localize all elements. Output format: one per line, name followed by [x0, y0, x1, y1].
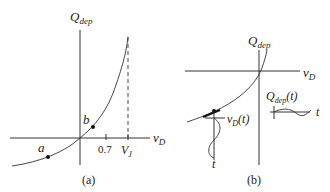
point-a: [46, 155, 50, 159]
caption-b: (b): [247, 173, 261, 187]
qdep-t-label: Qdep(t): [266, 89, 298, 105]
operating-segment: [203, 110, 220, 117]
point-a-label: a: [38, 140, 45, 155]
y-axis-label: Qdep: [248, 33, 271, 50]
caption-a: (a): [82, 173, 95, 187]
panel-a: Qdep vD 0.7 VJ a b (a): [10, 9, 166, 187]
y-axis-label: Qdep: [70, 9, 93, 26]
point-b-label: b: [83, 112, 90, 127]
panel-b: Qdep vD vD(t) Qdep(t) t t (b): [185, 33, 320, 187]
point-b: [91, 125, 95, 129]
x-axis-label: vD: [153, 130, 166, 147]
vd-t-axis-label: t: [212, 157, 216, 171]
tick-label-0-7: 0.7: [98, 143, 112, 155]
diagram: Qdep vD 0.7 VJ a b (a) Qdep vD vD(t) Qde…: [0, 0, 330, 192]
vd-t-label: vD(t): [227, 112, 249, 128]
qdep-t-axis-label: t: [316, 105, 320, 119]
tick-label-vj: VJ: [121, 143, 132, 159]
x-axis-label: vD: [303, 65, 316, 82]
